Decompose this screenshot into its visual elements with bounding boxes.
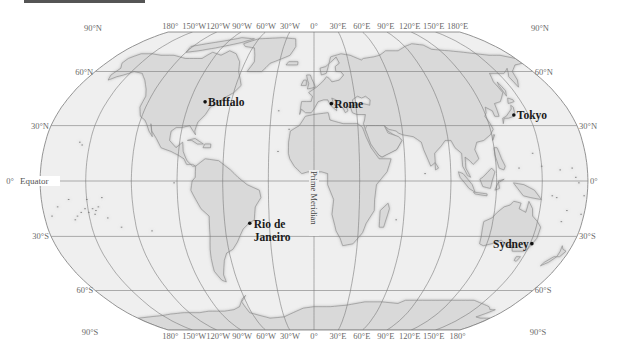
island-icon bbox=[94, 214, 96, 215]
island-icon bbox=[173, 182, 175, 183]
longitude-label-bottom: 90°W bbox=[232, 331, 252, 341]
island-icon bbox=[566, 210, 568, 211]
island-icon bbox=[575, 177, 577, 178]
island-icon bbox=[580, 214, 582, 215]
island-icon bbox=[95, 210, 97, 211]
island-icon bbox=[571, 168, 573, 169]
longitude-label-bottom: 30°W bbox=[280, 331, 300, 341]
longitude-label-bottom: 60°E bbox=[353, 331, 370, 341]
longitude-label-top: 150°E bbox=[423, 21, 444, 31]
island-icon bbox=[559, 169, 561, 170]
longitude-label-bottom: 30°E bbox=[329, 331, 346, 341]
longitude-label-top: 90°W bbox=[232, 21, 252, 31]
city-dot-icon bbox=[330, 102, 334, 106]
island-icon bbox=[278, 110, 280, 111]
island-icon bbox=[578, 182, 580, 183]
longitude-label-bottom: 150°W bbox=[182, 331, 206, 341]
city-marker-tokyo: Tokyo bbox=[512, 109, 547, 122]
latitude-label-right: 60°S bbox=[535, 285, 552, 295]
island-icon bbox=[288, 129, 290, 130]
island-icon bbox=[92, 208, 94, 209]
island-icon bbox=[532, 153, 534, 154]
latitude-label-left: 60°S bbox=[77, 285, 94, 295]
latitude-label-right: 30°N bbox=[579, 121, 597, 131]
longitude-label-bottom: 90°E bbox=[377, 331, 394, 341]
longitude-label-top: 30°E bbox=[329, 21, 346, 31]
city-marker-buffalo: Buffalo bbox=[203, 96, 244, 108]
latitude-label-left: 30°N bbox=[31, 121, 49, 131]
island-icon bbox=[79, 142, 81, 143]
longitude-label-bottom: 180° bbox=[450, 331, 466, 341]
island-icon bbox=[121, 227, 123, 228]
longitude-label-bottom: 120°W bbox=[206, 331, 230, 341]
latitude-label-right: 0° bbox=[590, 176, 598, 186]
prime-meridian-label: Prime Meridian bbox=[309, 171, 319, 225]
city-marker-rome: Rome bbox=[330, 98, 364, 110]
island-icon bbox=[518, 168, 520, 169]
pole-label-north: 90°N bbox=[84, 23, 102, 33]
city-label: Sydney bbox=[493, 238, 529, 251]
longitude-label-top: 180° bbox=[162, 21, 178, 31]
island-icon bbox=[424, 173, 426, 174]
equator-label: Equator bbox=[20, 176, 49, 186]
latitude-label-right: 30°S bbox=[579, 231, 596, 241]
longitude-label-top: 90°E bbox=[377, 21, 394, 31]
city-marker-sydney: Sydney bbox=[493, 238, 534, 251]
island-icon bbox=[80, 212, 82, 213]
longitude-label-bottom: 0° bbox=[310, 331, 318, 341]
longitude-label-bottom: 150°E bbox=[423, 331, 444, 341]
longitude-label-top: 0° bbox=[310, 21, 318, 31]
longitude-label-bottom: 60°W bbox=[256, 331, 276, 341]
island-icon bbox=[75, 219, 77, 220]
island-icon bbox=[101, 197, 103, 198]
island-icon bbox=[57, 206, 59, 207]
pole-label-north: 90°N bbox=[531, 23, 549, 33]
island-icon bbox=[77, 216, 79, 217]
island-icon bbox=[51, 216, 53, 217]
city-dot-icon bbox=[512, 113, 516, 117]
island-icon bbox=[277, 151, 279, 152]
island-icon bbox=[395, 219, 397, 220]
city-label: Buffalo bbox=[208, 96, 245, 108]
longitude-label-top: 120°W bbox=[206, 21, 230, 31]
longitude-label-top: 60°E bbox=[353, 21, 370, 31]
city-dot-icon bbox=[248, 222, 252, 226]
latitude-label-left: 60°N bbox=[75, 67, 93, 77]
city-label: Tokyo bbox=[517, 109, 548, 122]
city-dot-icon bbox=[203, 100, 207, 104]
pole-label-south: 90°S bbox=[530, 327, 547, 337]
latitude-label-left: 30°S bbox=[32, 231, 49, 241]
longitude-label-top: 150°W bbox=[182, 21, 206, 31]
island-icon bbox=[84, 208, 86, 209]
city-dot-icon bbox=[530, 242, 534, 246]
island-icon bbox=[107, 217, 109, 218]
longitude-label-bottom: 120°E bbox=[399, 331, 420, 341]
island-icon bbox=[556, 197, 558, 198]
world-map: 90°N180°150°W120°W90°W60°W30°W0°30°E60°E… bbox=[0, 0, 628, 359]
longitude-label-top: 30°W bbox=[280, 21, 300, 31]
island-icon bbox=[81, 144, 83, 145]
island-icon bbox=[151, 230, 153, 231]
longitude-label-top: 120°E bbox=[399, 21, 420, 31]
pole-label-south: 90°S bbox=[82, 327, 99, 337]
island-icon bbox=[68, 199, 70, 200]
longitude-label-top: 60°W bbox=[256, 21, 276, 31]
city-label: Rio de bbox=[254, 218, 286, 230]
longitude-label-top: 180°E bbox=[447, 21, 468, 31]
latitude-label-right: 60°N bbox=[535, 67, 553, 77]
island-icon bbox=[551, 195, 553, 196]
longitude-label-bottom: 180° bbox=[162, 331, 178, 341]
island-icon bbox=[98, 206, 100, 207]
island-icon bbox=[583, 195, 585, 196]
city-label-line2: Janeiro bbox=[254, 231, 291, 243]
island-icon bbox=[561, 221, 563, 222]
city-label: Rome bbox=[334, 98, 363, 110]
latitude-label-left: 0° bbox=[6, 176, 14, 186]
city-marker-rio-de: Rio deJaneiro bbox=[248, 218, 291, 243]
